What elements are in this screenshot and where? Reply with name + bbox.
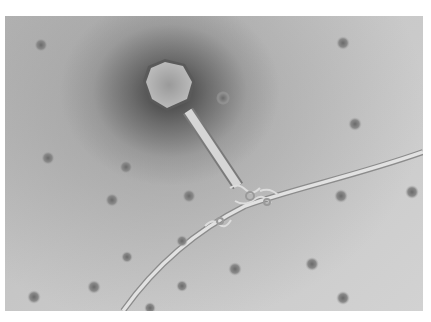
phage-tail <box>188 111 238 186</box>
flagellum <box>123 152 423 311</box>
micrograph <box>5 16 423 311</box>
micrograph-svg <box>5 16 423 311</box>
phage-head <box>143 59 195 111</box>
